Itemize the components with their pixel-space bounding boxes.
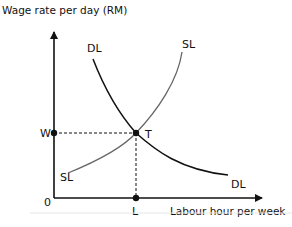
labour-market-diagram: Wage rate per day (RM) DL SL W T SL DL 0… (0, 0, 292, 227)
labour-label: L (132, 205, 139, 218)
origin-label: 0 (44, 196, 51, 209)
labour-point (133, 195, 139, 201)
demand-label-top: DL (87, 42, 102, 55)
supply-label-top: SL (182, 38, 196, 51)
y-axis-label: Wage rate per day (RM) (2, 4, 127, 16)
supply-label-bottom: SL (60, 171, 74, 184)
equilibrium-point (133, 130, 139, 136)
wage-point (51, 130, 57, 136)
x-axis-label: Labour hour per week (170, 205, 286, 217)
demand-label-bottom: DL (231, 178, 246, 191)
wage-label: W (40, 127, 51, 140)
demand-curve (93, 59, 228, 175)
equilibrium-label: T (144, 128, 152, 141)
